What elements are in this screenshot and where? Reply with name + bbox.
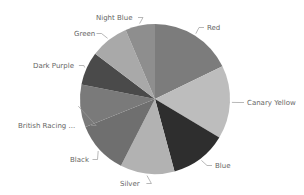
leader-line — [97, 34, 108, 39]
leader-line — [138, 18, 143, 24]
data-label: Black — [70, 156, 90, 164]
data-label: Dark Purple — [33, 62, 74, 70]
data-label: Night Blue — [96, 14, 133, 22]
data-label: Canary Yellow — [247, 99, 296, 107]
leader-line — [196, 28, 204, 34]
data-label: Green — [74, 30, 95, 38]
pie-slices — [80, 24, 230, 174]
data-label: Blue — [215, 162, 231, 170]
leader-line — [79, 66, 85, 68]
data-label: Red — [207, 24, 220, 32]
data-label: Silver — [120, 180, 140, 188]
pie-chart: RedCanary YellowBlueSilverBlackBritish R… — [0, 0, 304, 195]
leader-line — [93, 151, 99, 160]
leader-line — [146, 176, 151, 184]
data-label: British Racing ... — [18, 122, 75, 130]
leader-line — [201, 160, 212, 165]
